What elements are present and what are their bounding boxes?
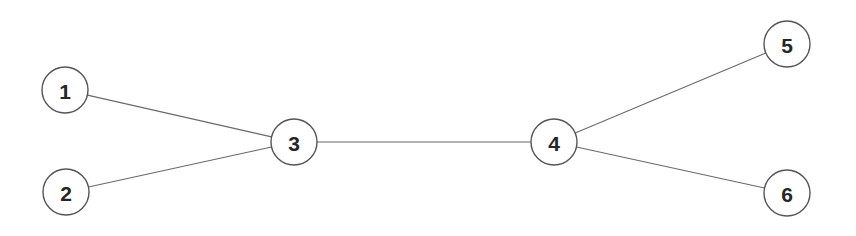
graph-node-1[interactable]: 1	[42, 67, 88, 113]
graph-node-label-1: 1	[59, 80, 71, 103]
graph-node-6[interactable]: 6	[764, 170, 810, 216]
graph-diagram-canvas: 123456	[0, 0, 856, 236]
graph-node-4[interactable]: 4	[531, 119, 577, 165]
graph-edge-2-3	[88, 147, 271, 187]
graph-node-2[interactable]: 2	[43, 169, 89, 215]
graph-node-label-5: 5	[781, 34, 793, 57]
graph-edge-4-5	[575, 53, 766, 133]
graph-node-label-3: 3	[288, 132, 300, 155]
graph-edge-1-3	[87, 95, 271, 137]
nodes-layer: 123456	[42, 21, 810, 216]
graph-node-label-4: 4	[548, 132, 560, 155]
graph-node-label-6: 6	[781, 183, 793, 206]
graph-node-5[interactable]: 5	[764, 21, 810, 67]
graph-node-3[interactable]: 3	[271, 119, 317, 165]
graph-edge-4-6	[576, 147, 764, 188]
edges-layer	[87, 53, 765, 188]
graph-svg: 123456	[0, 0, 856, 236]
graph-node-label-2: 2	[60, 182, 72, 205]
